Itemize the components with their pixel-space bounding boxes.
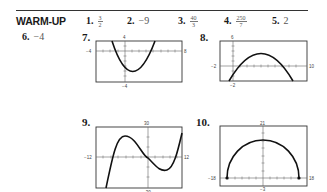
ymax-label: 4: [123, 35, 126, 40]
answer-6: 6.−4: [22, 31, 44, 42]
fraction: 32: [98, 15, 103, 28]
left-endpoint: [225, 176, 228, 179]
answer-4: 4.2507: [224, 15, 247, 28]
ymin-label: −2: [230, 83, 236, 88]
ymin-label: −4: [122, 84, 128, 89]
xmax-label: 12: [184, 155, 190, 160]
fraction: 2507: [236, 15, 247, 28]
section-heading: WARM-UP: [16, 15, 66, 27]
fraction: 403: [190, 15, 198, 28]
xmin-label: −18: [208, 176, 216, 181]
xmax-label: 8: [184, 49, 187, 54]
xmin-label: −4: [86, 49, 92, 54]
graph-8-number: 8.: [200, 31, 208, 43]
xmax-label: 18: [309, 176, 315, 181]
top-rule: [16, 10, 308, 11]
ymax-label: 30: [144, 121, 150, 126]
graph-8: 6 −2 10 −2: [210, 34, 327, 92]
answer-3: 3.403: [178, 15, 198, 28]
xmin-label: −2: [211, 64, 217, 69]
ymin-label: −30: [143, 190, 151, 192]
cubic-curve: [106, 133, 182, 188]
right-endpoint: [297, 176, 300, 179]
parabola-curve: [112, 41, 155, 72]
ymax-label: 6: [231, 35, 234, 40]
xmin-label: −12: [84, 155, 92, 160]
xmax-label: 10: [309, 64, 315, 69]
ymax-label: 21: [260, 121, 266, 126]
graph-7: 4 −4 8 −4: [86, 34, 196, 92]
answer-2: 2.−9: [127, 15, 149, 26]
graph-9: 30 −12 12 −30: [84, 120, 196, 192]
graph-10: 21 −18 18 −3: [208, 120, 327, 192]
answer-1: 1.32: [86, 15, 103, 28]
answer-5: 5.2: [272, 15, 289, 26]
ymin-label: −3: [260, 187, 266, 192]
